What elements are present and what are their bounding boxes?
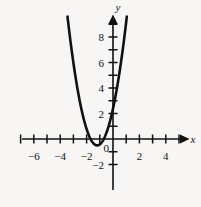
y-axis-label: y <box>115 1 121 13</box>
y-tick-label-2: 2 <box>99 108 105 120</box>
x-tick-label-minus-4: −4 <box>54 150 66 162</box>
y-tick-label-minus-2: −2 <box>92 159 104 171</box>
coordinate-plane: −6 −4 −2 2 4 8 6 4 2 −2 0 x y <box>0 0 201 207</box>
x-tick-label-minus-6: −6 <box>28 150 40 162</box>
graph-figure: −6 −4 −2 2 4 8 6 4 2 −2 0 x y <box>0 0 201 207</box>
x-tick-label-minus-2: −2 <box>81 150 93 162</box>
origin-label: 0 <box>104 142 110 154</box>
x-axis-arrowhead <box>180 134 190 143</box>
y-tick-label-6: 6 <box>99 57 105 69</box>
parabola-curve <box>68 17 127 146</box>
x-tick-label-4: 4 <box>163 150 169 162</box>
y-axis-arrowhead <box>108 15 117 25</box>
x-axis-label: x <box>190 133 196 145</box>
x-tick-label-2: 2 <box>137 150 143 162</box>
y-tick-label-4: 4 <box>99 82 105 94</box>
y-tick-label-8: 8 <box>99 31 105 43</box>
y-axis <box>108 15 117 191</box>
